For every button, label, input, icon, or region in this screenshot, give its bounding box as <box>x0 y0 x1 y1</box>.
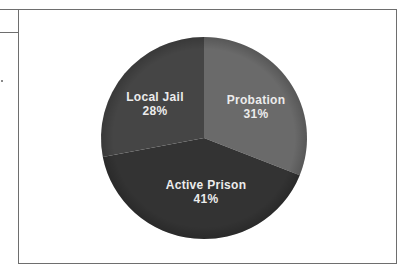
slice-label-probation: Probation 31% <box>227 93 286 121</box>
slice-label-active-prison: Active Prison 41% <box>166 178 247 206</box>
pie-chart <box>0 0 416 278</box>
active-prison-percent: 41% <box>166 192 247 206</box>
local-jail-percent: 28% <box>126 104 184 118</box>
local-jail-name: Local Jail <box>126 90 184 104</box>
slice-label-local-jail: Local Jail 28% <box>126 90 184 118</box>
active-prison-name: Active Prison <box>166 178 247 192</box>
probation-name: Probation <box>227 93 286 107</box>
probation-percent: 31% <box>227 107 286 121</box>
pie-edge-shading <box>101 37 307 239</box>
